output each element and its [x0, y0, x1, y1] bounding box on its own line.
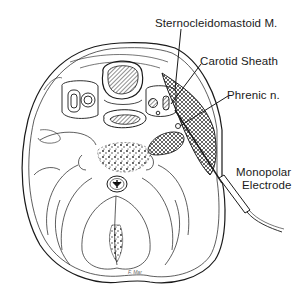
label-carotid-sheath: Carotid Sheath: [200, 55, 278, 68]
neck-cross-section-diagram: Sternocleidomastoid M. Carotid Sheath Ph…: [0, 0, 308, 297]
left-vessels: [62, 81, 98, 119]
trachea: [102, 61, 142, 104]
sternocleidomastoid-muscle: [162, 73, 216, 175]
scalene-muscle: [148, 132, 184, 155]
label-electrode-line1: Monopolar: [236, 166, 291, 179]
label-monopolar-electrode: Monopolar Electrode: [236, 166, 291, 192]
label-phrenic-nerve: Phrenic n.: [227, 89, 280, 102]
phrenic-nerve: [176, 124, 181, 129]
artist-signature: F. Mar: [128, 269, 142, 275]
vertebral-body: [98, 143, 150, 173]
spinal-cord: [107, 176, 127, 192]
anatomy-illustration: [0, 0, 308, 297]
esophagus: [104, 110, 146, 128]
label-electrode-line2: Electrode: [236, 179, 291, 192]
label-sternocleidomastoid: Sternocleidomastoid M.: [155, 17, 277, 30]
